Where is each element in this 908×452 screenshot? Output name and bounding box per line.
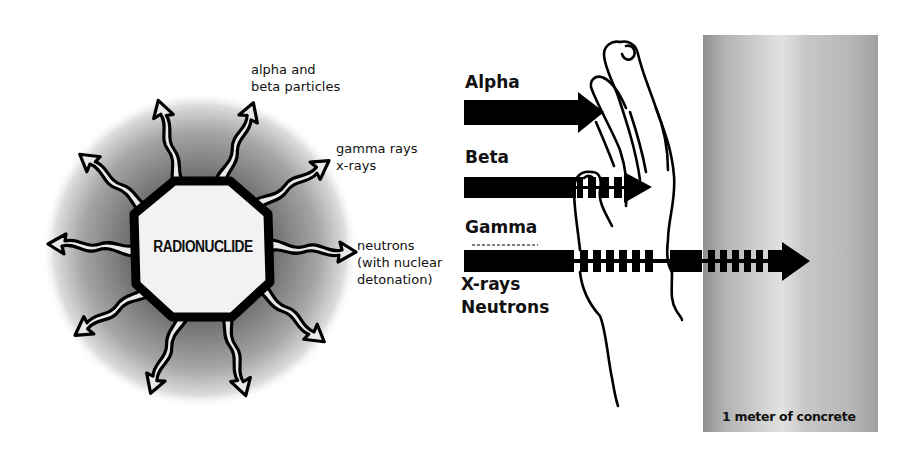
label-line: alpha and	[251, 61, 340, 78]
label-line: neutrons	[357, 237, 442, 254]
label-line: gamma rays	[336, 140, 417, 157]
radiation-diagram	[0, 0, 908, 452]
label-line: x-rays	[336, 157, 417, 174]
label-gamma-xrays: gamma rays x-rays	[336, 140, 417, 174]
label-xrays: X-rays	[461, 274, 520, 295]
label-neutrons: neutrons (with nuclear detonation)	[357, 237, 442, 288]
label-line: detonation)	[357, 271, 442, 288]
label-alpha-beta: alpha and beta particles	[251, 61, 340, 95]
nucleus-label: RADIONUCLIDE	[151, 238, 256, 256]
concrete-label: 1 meter of concrete	[722, 409, 856, 424]
label-alpha: Alpha	[465, 72, 520, 93]
label-line: beta particles	[251, 78, 340, 95]
label-beta: Beta	[465, 147, 509, 168]
hand-outline	[574, 42, 682, 407]
beta-arrow	[464, 172, 652, 203]
label-gamma: Gamma	[465, 217, 537, 238]
alpha-arrow	[464, 92, 604, 133]
label-line: (with nuclear	[357, 254, 442, 271]
label-neutrons-right: Neutrons	[461, 297, 549, 318]
concrete-barrier	[703, 35, 878, 432]
